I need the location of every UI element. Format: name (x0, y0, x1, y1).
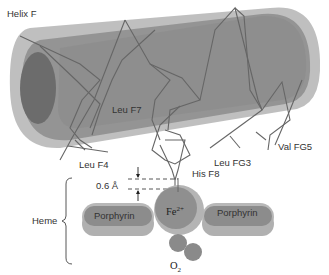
porphyrin-left: Porphyrin (82, 203, 154, 236)
leu-fg3-label: Leu FG3 (214, 157, 251, 168)
heme-label: Heme (32, 215, 57, 226)
heme-brace: Heme (32, 178, 72, 264)
val-fg5-label: Val FG5 (278, 141, 312, 152)
helix-f-cylinder (10, 7, 320, 148)
porphyrin-left-label: Porphyrin (94, 210, 135, 221)
porphyrin-right-label: Porphyrin (217, 207, 258, 218)
iron-atom: Fe2+ (154, 178, 204, 235)
oxygen-molecule: O2 (169, 234, 202, 274)
distance-label: 0.6 Å (96, 180, 119, 191)
heme-helix-diagram: Helix F Leu F7 Leu F4 Leu FG3 Val FG5 Hi… (0, 0, 329, 275)
helix-f-label: Helix F (7, 8, 37, 19)
helix-end-cap (20, 52, 56, 124)
oxygen-label: O2 (170, 260, 182, 274)
porphyrin-right: Porphyrin (202, 203, 274, 236)
leu-f7-label: Leu F7 (112, 104, 142, 115)
his-f8-label: His F8 (192, 168, 219, 179)
leu-f4-label: Leu F4 (79, 159, 109, 170)
